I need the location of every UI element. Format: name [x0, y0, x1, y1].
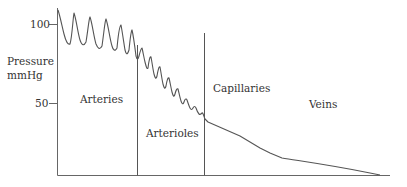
chart-svg [0, 0, 407, 187]
blood-pressure-diagram: Pressure mmHg 100 50 Arteries Arterioles… [0, 0, 407, 187]
tick-label-50: 50 [35, 98, 48, 109]
y-axis-label-line1: Pressure [7, 56, 54, 67]
tick-label-100: 100 [30, 19, 50, 30]
region-label-capillaries: Capillaries [213, 83, 270, 94]
region-label-veins: Veins [309, 99, 337, 110]
region-label-arterioles: Arterioles [146, 128, 199, 139]
y-axis-label-line2: mmHg [7, 70, 43, 81]
region-label-arteries: Arteries [80, 94, 123, 105]
